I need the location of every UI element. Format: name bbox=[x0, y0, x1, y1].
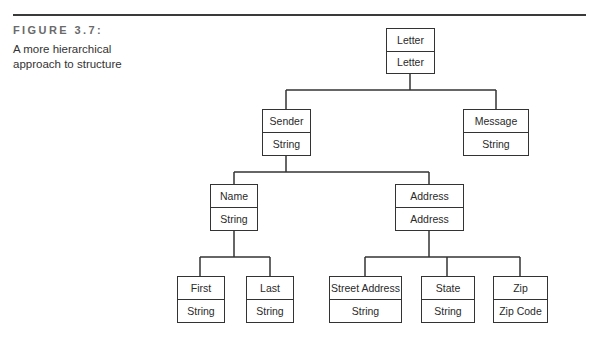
node-last: Last String bbox=[246, 276, 294, 323]
node-state: State String bbox=[421, 276, 475, 323]
node-letter-name: Letter bbox=[387, 29, 434, 52]
node-street-address-type: String bbox=[330, 300, 401, 322]
node-sender: Sender String bbox=[262, 109, 311, 156]
node-street-address: Street Address String bbox=[329, 276, 402, 323]
node-letter: Letter Letter bbox=[386, 28, 435, 74]
node-name: Name String bbox=[210, 184, 258, 231]
node-address-name: Address bbox=[396, 185, 463, 208]
node-name-name: Name bbox=[211, 185, 257, 208]
node-last-type: String bbox=[247, 300, 293, 322]
node-message-name: Message bbox=[464, 110, 528, 133]
node-zip-type: Zip Code bbox=[494, 300, 547, 322]
node-first-name: First bbox=[178, 277, 224, 300]
node-name-type: String bbox=[211, 208, 257, 230]
node-zip: Zip Zip Code bbox=[493, 276, 548, 323]
node-message-type: String bbox=[464, 133, 528, 155]
node-first-type: String bbox=[178, 300, 224, 322]
node-last-name: Last bbox=[247, 277, 293, 300]
node-state-type: String bbox=[422, 300, 474, 322]
node-first: First String bbox=[177, 276, 225, 323]
node-address-type: Address bbox=[396, 208, 463, 230]
node-sender-name: Sender bbox=[263, 110, 310, 133]
node-address: Address Address bbox=[395, 184, 464, 231]
node-message: Message String bbox=[463, 109, 529, 156]
node-zip-name: Zip bbox=[494, 277, 547, 300]
node-street-address-name: Street Address bbox=[330, 277, 401, 300]
node-letter-type: Letter bbox=[387, 52, 434, 74]
node-sender-type: String bbox=[263, 133, 310, 155]
node-state-name: State bbox=[422, 277, 474, 300]
